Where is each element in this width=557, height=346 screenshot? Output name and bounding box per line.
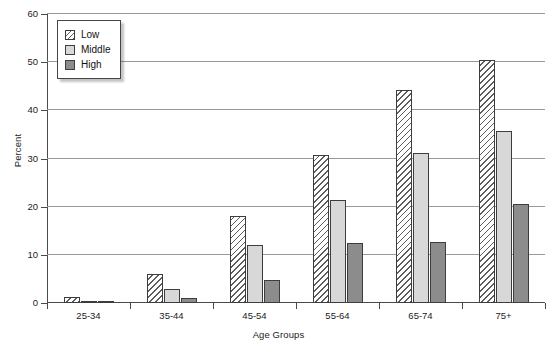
bar-middle [496,131,512,303]
x-axis-tick-label: 35-44 [159,310,183,321]
dark-gray-swatch [65,60,75,70]
x-axis-tick-label: 75+ [495,310,511,321]
bar-middle [81,301,97,303]
gridline [47,254,545,255]
y-axis-tick-label: 50 [2,56,38,67]
bar-high [181,298,197,303]
bar-chart: Percent 0102030405060 25-3435-4445-5455-… [0,0,557,346]
bar-high [347,243,363,303]
hatched-swatch [65,30,75,40]
bar-high [264,280,280,303]
gridline [47,61,545,62]
y-axis-tick-label: 20 [2,201,38,212]
y-axis-tick-label: 0 [2,297,38,308]
legend-item: Low [65,27,110,42]
x-axis-tick [379,303,380,309]
x-axis-tick [47,303,48,309]
gridline [47,13,545,14]
legend-item: Middle [65,42,110,57]
bar-group [396,14,446,303]
bar-group [479,14,529,303]
gridline [47,206,545,207]
bar-high [513,204,529,303]
bar-low [313,155,329,303]
x-axis-tick [213,303,214,309]
bar-group [313,14,363,303]
y-axis-tick-label: 40 [2,104,38,115]
x-axis-tick-label: 45-54 [242,310,266,321]
y-axis-title: Percent [12,101,23,201]
chart-legend: LowMiddleHigh [57,20,121,79]
bar-low [396,90,412,303]
bar-low [147,274,163,303]
gridline [47,109,545,110]
bar-low [64,297,80,303]
x-axis-tick-label: 65-74 [408,310,432,321]
bar-high [98,301,114,303]
bar-middle [247,245,263,303]
bar-low [230,216,246,303]
gridline [47,158,545,159]
x-axis-tick [545,303,546,309]
x-axis-tick [296,303,297,309]
bar-middle [164,289,180,303]
x-axis-tick [462,303,463,309]
x-axis-title: Age Groups [0,329,557,340]
legend-item-label: Low [81,29,99,41]
y-axis-tick-label: 10 [2,249,38,260]
bar-low [479,60,495,303]
bar-high [430,242,446,303]
legend-item-label: Middle [81,44,110,56]
y-axis-tick-label: 60 [2,8,38,19]
plot-area [47,14,545,303]
legend-item: High [65,57,110,72]
bar-group [147,14,197,303]
x-axis-tick-label: 55-64 [325,310,349,321]
x-axis-tick [130,303,131,309]
light-gray-swatch [65,45,75,55]
bar-group [230,14,280,303]
y-axis-tick-label: 30 [2,153,38,164]
bar-middle [330,200,346,303]
bar-middle [413,153,429,303]
x-axis-tick-label: 25-34 [76,310,100,321]
legend-item-label: High [81,59,102,71]
